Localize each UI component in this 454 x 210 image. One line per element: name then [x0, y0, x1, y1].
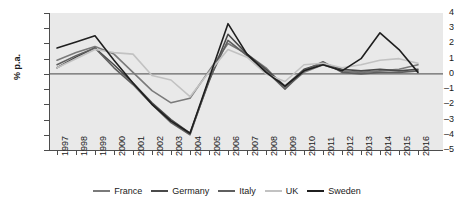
x-tick-label: 2012	[346, 136, 355, 156]
x-tick	[76, 150, 77, 155]
y-tick	[44, 59, 49, 60]
x-tick	[209, 150, 210, 155]
y-tick-label: –2	[410, 99, 454, 108]
y-axis-title: % p.a.	[12, 37, 22, 97]
x-tick	[399, 150, 400, 155]
x-tick-label: 2016	[422, 136, 431, 156]
x-tick-label: 2006	[232, 136, 241, 156]
x-tick-label: 2013	[365, 136, 374, 156]
x-tick	[342, 150, 343, 155]
x-tick	[95, 150, 96, 155]
x-tick	[152, 150, 153, 155]
x-tick	[323, 150, 324, 155]
y-tick	[44, 43, 49, 44]
y-tick	[44, 120, 49, 121]
y-axis-line	[49, 13, 50, 150]
y-tick	[44, 135, 49, 136]
legend-swatch-uk	[265, 190, 282, 192]
legend-label-sweden: Sweden	[328, 186, 361, 196]
x-tick-label: 2014	[384, 136, 393, 156]
series-line-sweden	[57, 24, 418, 134]
x-tick	[133, 150, 134, 155]
legend-label-france: France	[114, 186, 142, 196]
y-tick-label: 3	[410, 23, 454, 32]
legend-swatch-germany	[151, 190, 168, 192]
plot-area	[50, 13, 443, 150]
x-tick	[266, 150, 267, 155]
x-tick-label: 2002	[156, 136, 165, 156]
y-tick-label: –4	[410, 130, 454, 139]
x-tick	[247, 150, 248, 155]
y-tick-label: 1	[410, 54, 454, 63]
legend-swatch-sweden	[307, 190, 324, 192]
x-tick-label: 2011	[327, 137, 336, 156]
y-tick-label: –3	[410, 115, 454, 124]
y-tick-label: 4	[410, 8, 454, 17]
plot-svg	[50, 13, 443, 150]
legend-item-uk[interactable]: UK	[265, 186, 299, 196]
legend-label-uk: UK	[286, 186, 299, 196]
y-tick	[44, 13, 49, 14]
x-tick-label: 2001	[137, 136, 146, 156]
y-tick-label: 2	[410, 38, 454, 47]
legend-item-france[interactable]: France	[93, 186, 142, 196]
x-tick	[285, 150, 286, 155]
x-tick	[171, 150, 172, 155]
x-tick-label: 2008	[270, 136, 279, 156]
x-tick	[228, 150, 229, 155]
y-tick-label: 0	[410, 69, 454, 78]
y-tick	[44, 74, 49, 75]
x-tick	[418, 150, 419, 155]
x-tick-label: 2015	[403, 136, 412, 156]
chart-figure: 43210–1–2–3–4–5 % p.a. 19971998199920002…	[0, 0, 454, 210]
x-tick-label: 2007	[251, 136, 260, 156]
legend-item-italy[interactable]: Italy	[218, 186, 256, 196]
x-tick-label: 2010	[308, 136, 317, 156]
x-tick-label: 2003	[175, 136, 184, 156]
legend-swatch-france	[93, 190, 110, 192]
chart-legend: FranceGermanyItalyUKSweden	[0, 186, 454, 196]
x-tick	[114, 150, 115, 155]
y-tick	[44, 104, 49, 105]
legend-label-germany: Germany	[172, 186, 209, 196]
legend-swatch-italy	[218, 190, 235, 192]
y-tick	[44, 89, 49, 90]
x-tick-label: 1998	[80, 136, 89, 156]
x-tick	[57, 150, 58, 155]
x-tick-label: 1999	[99, 136, 108, 156]
x-tick-label: 1997	[61, 136, 70, 156]
x-tick-label: 2004	[194, 136, 203, 156]
x-tick	[190, 150, 191, 155]
legend-item-sweden[interactable]: Sweden	[307, 186, 361, 196]
legend-label-italy: Italy	[239, 186, 256, 196]
legend-item-germany[interactable]: Germany	[151, 186, 209, 196]
x-tick-label: 2009	[289, 136, 298, 156]
y-tick	[44, 28, 49, 29]
x-tick-label: 2005	[213, 136, 222, 156]
y-tick-label: –1	[410, 84, 454, 93]
x-tick-label: 2000	[118, 136, 127, 156]
x-tick	[361, 150, 362, 155]
x-tick	[304, 150, 305, 155]
x-tick	[380, 150, 381, 155]
